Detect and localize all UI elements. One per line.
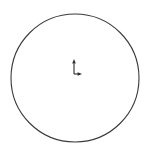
drawing-canvas bbox=[0, 0, 149, 152]
technical-drawing-svg bbox=[0, 0, 149, 152]
canvas-background bbox=[0, 0, 149, 152]
